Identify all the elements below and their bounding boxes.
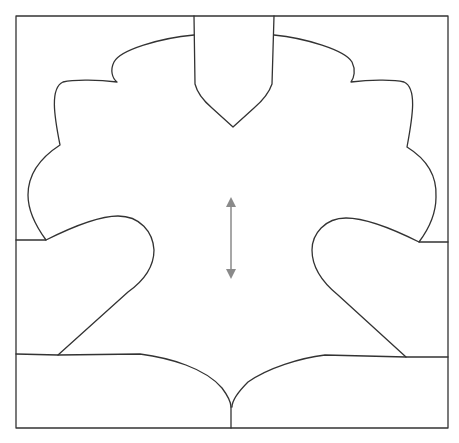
bottom-curved-seam-right [232, 355, 448, 407]
right-wing-lobe [312, 218, 448, 357]
right-scalloped-edge [274, 35, 436, 242]
left-wing-lobe [16, 216, 154, 355]
pattern-diagram [0, 0, 459, 443]
bottom-curved-seam-left [16, 354, 231, 407]
arrow-up-icon [226, 197, 236, 207]
left-scalloped-edge [28, 35, 194, 240]
arrow-down-icon [226, 269, 236, 279]
center-top-pocket [194, 16, 274, 127]
grainline-arrow [226, 197, 236, 279]
outer-frame [16, 16, 448, 428]
